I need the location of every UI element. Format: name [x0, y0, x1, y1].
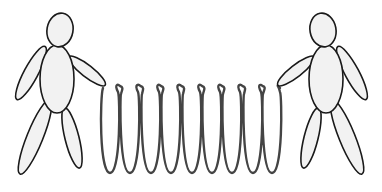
head [44, 11, 76, 49]
illustration [0, 0, 382, 192]
right-figure [274, 11, 372, 177]
coil-spring [101, 85, 281, 173]
figures [11, 11, 373, 177]
head [307, 11, 339, 49]
torso [40, 45, 74, 113]
leg [58, 106, 87, 170]
leg [297, 106, 326, 170]
left-figure [11, 11, 109, 177]
spring-coil-path [101, 85, 281, 173]
torso [309, 45, 343, 113]
